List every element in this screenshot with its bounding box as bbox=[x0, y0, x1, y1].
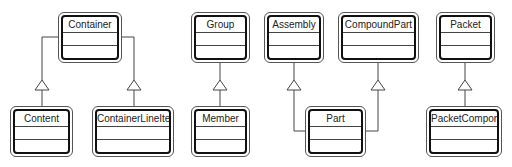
class-container-line-item[interactable]: ContainerLineItem bbox=[92, 106, 174, 157]
class-name: Part bbox=[310, 111, 361, 127]
operations-compartment bbox=[196, 140, 245, 152]
attributes-compartment bbox=[196, 33, 245, 46]
class-name: Assembly bbox=[269, 17, 319, 33]
operations-compartment bbox=[343, 46, 414, 58]
attributes-compartment bbox=[310, 127, 361, 140]
attributes-compartment bbox=[431, 127, 497, 140]
class-packet[interactable]: Packet bbox=[436, 12, 495, 63]
class-packet-component[interactable]: PacketComponent bbox=[426, 106, 502, 157]
class-name: Packet bbox=[441, 17, 490, 33]
uml-class-diagram: Container Content ContainerLineItem Grou… bbox=[0, 0, 512, 167]
attributes-compartment bbox=[343, 33, 414, 46]
attributes-compartment bbox=[196, 127, 245, 140]
class-compound-part[interactable]: CompoundPart bbox=[338, 12, 419, 63]
connector-containerlineitem-container bbox=[122, 37, 134, 80]
attributes-compartment bbox=[441, 33, 490, 46]
attributes-compartment bbox=[63, 33, 117, 46]
generalization-arrow-icon bbox=[35, 80, 49, 90]
generalization-arrow-icon bbox=[458, 80, 472, 90]
class-name: Member bbox=[196, 111, 245, 127]
operations-compartment bbox=[310, 140, 361, 152]
class-part[interactable]: Part bbox=[305, 106, 366, 157]
connector-content-container bbox=[42, 37, 58, 80]
generalization-arrow-icon bbox=[287, 80, 301, 90]
generalization-arrow-icon bbox=[213, 80, 227, 90]
class-name: PacketComponent bbox=[431, 111, 497, 127]
operations-compartment bbox=[15, 140, 68, 152]
operations-compartment bbox=[431, 140, 497, 152]
operations-compartment bbox=[269, 46, 319, 58]
class-name: Content bbox=[15, 111, 68, 127]
attributes-compartment bbox=[97, 127, 169, 140]
class-member[interactable]: Member bbox=[191, 106, 250, 157]
operations-compartment bbox=[441, 46, 490, 58]
generalization-arrow-icon bbox=[371, 80, 385, 90]
operations-compartment bbox=[196, 46, 245, 58]
class-group[interactable]: Group bbox=[191, 12, 250, 63]
attributes-compartment bbox=[269, 33, 319, 46]
class-assembly[interactable]: Assembly bbox=[264, 12, 324, 63]
generalization-arrow-icon bbox=[127, 80, 141, 90]
class-name: CompoundPart bbox=[343, 17, 414, 33]
class-name: Container bbox=[63, 17, 117, 33]
class-name: ContainerLineItem bbox=[97, 111, 169, 127]
operations-compartment bbox=[63, 46, 117, 58]
class-name: Group bbox=[196, 17, 245, 33]
operations-compartment bbox=[97, 140, 169, 152]
class-container[interactable]: Container bbox=[58, 12, 122, 63]
class-content[interactable]: Content bbox=[10, 106, 73, 157]
attributes-compartment bbox=[15, 127, 68, 140]
